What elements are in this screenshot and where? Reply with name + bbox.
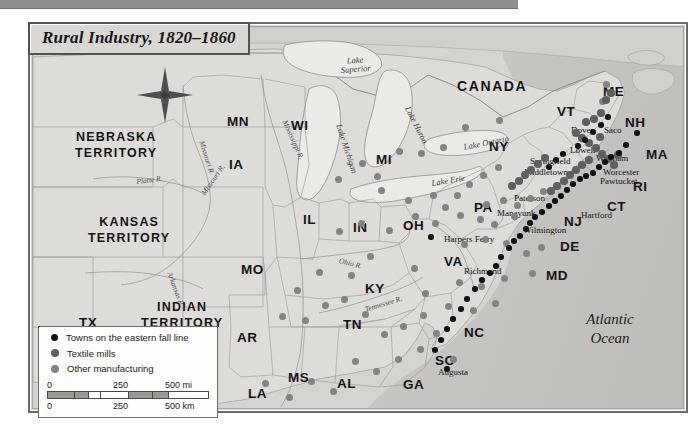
state-label-oh: OH: [403, 219, 424, 233]
other-manufacturing-marker: [470, 307, 477, 314]
other-manufacturing-marker: [478, 283, 485, 290]
fall-line-town-marker: [523, 226, 529, 232]
other-manufacturing-marker: [529, 270, 536, 277]
other-manufacturing-marker: [358, 220, 365, 227]
page-title: Rural Industry, 1820–1860: [42, 28, 236, 48]
textile-mill-marker: [515, 177, 523, 185]
state-label-tn: TN: [343, 318, 362, 332]
other-manufacturing-marker: [348, 272, 355, 279]
state-label-ky: KY: [365, 282, 385, 296]
state-label-md: MD: [546, 269, 568, 283]
legend-item-label: Towns on the eastern fall line: [66, 333, 189, 343]
top-ui-bar: [0, 0, 518, 9]
fall-line-town-marker: [598, 122, 604, 128]
other-manufacturing-marker: [352, 358, 359, 365]
fall-line-town-marker: [546, 203, 552, 209]
fall-line-town-marker: [450, 316, 456, 322]
fall-line-town-marker: [564, 187, 570, 193]
city-label-wilmington: Wilmington: [523, 226, 566, 235]
lake-label-line: Superior: [341, 63, 371, 74]
state-label-mi: MI: [376, 153, 392, 167]
city-label-saco: Saco: [604, 126, 622, 135]
fall-line-town-marker: [590, 129, 596, 135]
fall-line-town-marker: [546, 164, 552, 170]
other-manufacturing-marker: [341, 296, 348, 303]
lake-label-lake-superior: LakeSuperior: [340, 55, 371, 74]
ocean-label: Atlantic Ocean: [562, 310, 658, 348]
other-manufacturing-marker: [302, 317, 309, 324]
scale-km-labels: 0250500 km: [47, 401, 209, 412]
territory-label-line2: TERRITORY: [75, 147, 157, 160]
other-manufacturing-marker: [417, 346, 424, 353]
territory-label-line2: TERRITORY: [88, 232, 170, 245]
textile-mill-marker: [547, 187, 555, 195]
top-ui-strip: [0, 0, 698, 9]
ocean-label-line2: Ocean: [562, 329, 658, 348]
textile-mill-marker: [585, 156, 593, 164]
fall-line-town-marker: [596, 164, 602, 170]
other-manufacturing-marker: [496, 117, 503, 124]
other-manufacturing-marker: [396, 148, 403, 155]
other-manufacturing-marker: [432, 220, 439, 227]
fall-line-town-marker: [517, 233, 523, 239]
other-manufacturing-marker: [450, 356, 457, 363]
other-manufacturing-marker: [433, 330, 440, 337]
state-label-al: AL: [337, 377, 356, 391]
textile-mill-marker: [582, 118, 590, 126]
top-ui-bar-right: [518, 0, 698, 8]
other-manufacturing-marker: [373, 368, 380, 375]
other-manufacturing-marker: [418, 150, 425, 157]
fall-line-town-marker: [623, 142, 629, 148]
fall-line-town-marker: [458, 306, 464, 312]
state-label-ma: MA: [646, 148, 668, 162]
screenshot-root: N CANADANEBRASKATERRITORYKANSASTERRITORY…: [0, 0, 698, 437]
fall-line-town-marker: [602, 159, 608, 165]
fall-line-town-marker: [634, 130, 640, 136]
territory-label-line1: NEBRASKA: [75, 131, 157, 144]
legend-item-label: Other manufacturing: [67, 364, 154, 374]
other-manufacturing-marker: [316, 269, 323, 276]
fall-line-town-marker: [558, 193, 564, 199]
other-manufacturing-marker: [381, 331, 388, 338]
fall-line-town-marker: [608, 154, 614, 160]
other-manufacturing-marker: [378, 187, 385, 194]
fall-line-town-marker: [577, 176, 583, 182]
other-manufacturing-marker: [308, 378, 315, 385]
fall-line-town-marker: [479, 277, 485, 283]
scale-km-tick: 0: [47, 401, 52, 412]
scale-miles-tick: 250: [113, 380, 128, 391]
textile-mill-marker: [602, 96, 610, 104]
other-manufacturing-marker: [411, 265, 418, 272]
city-label-hartford: Hartford: [581, 211, 612, 220]
state-label-vt: VT: [557, 105, 575, 119]
other-manufacturing-marker: [322, 302, 329, 309]
fall-line-town-marker: [552, 198, 558, 204]
state-label-ia: IA: [229, 158, 244, 172]
other-manufacturing-marker: [445, 303, 452, 310]
other-manufacturing-marker: [359, 160, 366, 167]
state-label-il: IL: [303, 213, 316, 227]
other-manufacturing-marker: [456, 279, 463, 286]
scale-km-tick: 250: [113, 401, 128, 412]
textile-mill-marker: [508, 182, 516, 190]
other-manufacturing-marker: [501, 275, 508, 282]
fall-line-town-marker: [560, 151, 566, 157]
fall-line-town-marker: [472, 286, 478, 292]
territory-label: KANSASTERRITORY: [88, 216, 170, 244]
other-manufacturing-marker: [482, 236, 489, 243]
state-label-mn: MN: [227, 115, 249, 129]
textile-mill-marker: [590, 115, 598, 123]
other-manufacturing-marker: [523, 250, 530, 257]
other-manufacturing-marker: [538, 244, 545, 251]
country-label-canada: CANADA: [457, 79, 527, 93]
fall-line-town-marker: [605, 114, 611, 120]
scale-bar-group: 0250500 mi 0250500 km: [47, 380, 209, 412]
map-legend: Towns on the eastern fall lineTextile mi…: [38, 326, 218, 418]
other-manufacturing-marker: [412, 213, 419, 220]
textile-mill-marker: [596, 133, 604, 141]
other-manufacturing-marker: [457, 212, 464, 219]
other-manufacturing-marker: [336, 228, 343, 235]
other-manufacturing-marker: [279, 313, 286, 320]
other-manufacturing-marker: [500, 197, 507, 204]
other-manufacturing-marker: [294, 287, 301, 294]
